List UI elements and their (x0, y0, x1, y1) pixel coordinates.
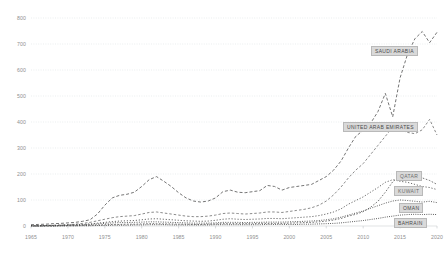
y-tick-label-0: 0 (4, 223, 26, 229)
series-label-united-arab-emirates[interactable]: UNITED ARAB EMIRATES (343, 122, 418, 132)
x-tick-label-2000: 2000 (276, 234, 302, 240)
x-tick-label-1980: 1980 (129, 234, 155, 240)
y-tick-label-700: 700 (4, 41, 26, 47)
chart-container: 800 700 600 500 400 300 200 100 0 1965 1… (0, 0, 444, 263)
series-label-saudi-arabia[interactable]: SAUDI ARABIA (371, 46, 418, 56)
y-tick-label-300: 300 (4, 145, 26, 151)
y-tick-label-200: 200 (4, 171, 26, 177)
y-tick-label-400: 400 (4, 119, 26, 125)
x-tick-label-2020: 2020 (424, 234, 444, 240)
y-tick-label-600: 600 (4, 67, 26, 73)
x-tick-label-1975: 1975 (92, 234, 118, 240)
series-label-qatar[interactable]: QATAR (396, 171, 422, 181)
series-label-kuwait[interactable]: KUWAIT (394, 186, 423, 196)
y-tick-label-500: 500 (4, 93, 26, 99)
x-tick-label-1970: 1970 (55, 234, 81, 240)
x-tick-label-1990: 1990 (203, 234, 229, 240)
series-line-united-arab-emirates (31, 119, 437, 225)
x-axis-tick-marks (31, 226, 437, 228)
series-label-oman[interactable]: OMAN (399, 203, 423, 213)
y-tick-label-100: 100 (4, 197, 26, 203)
x-tick-label-1985: 1985 (166, 234, 192, 240)
x-tick-label-1995: 1995 (239, 234, 265, 240)
x-tick-label-1965: 1965 (18, 234, 44, 240)
x-tick-label-2005: 2005 (313, 234, 339, 240)
y-tick-label-800: 800 (4, 15, 26, 21)
series-label-bahrain[interactable]: BAHRAIN (394, 218, 427, 228)
x-tick-label-2010: 2010 (350, 234, 376, 240)
x-tick-label-2015: 2015 (387, 234, 413, 240)
